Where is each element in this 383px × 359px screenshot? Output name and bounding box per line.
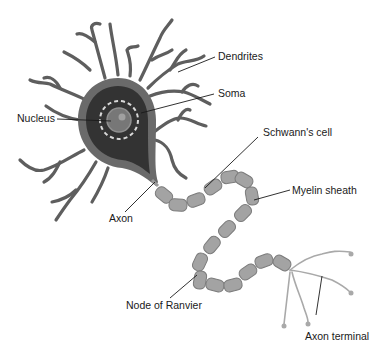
label-dendrites: Dendrites — [218, 50, 263, 62]
label-myelin-sheath: Myelin sheath — [292, 184, 357, 196]
label-schwann-cell: Schwann's cell — [263, 126, 332, 138]
label-node-of-ranvier: Node of Ranvier — [126, 299, 202, 311]
myelin-sheath — [153, 170, 293, 294]
label-axon-terminal: Axon terminal — [305, 330, 369, 342]
axon-terminal — [282, 251, 354, 328]
label-axon: Axon — [109, 212, 133, 224]
label-nucleus: Nucleus — [17, 112, 55, 124]
label-soma: Soma — [218, 87, 246, 99]
neuron-diagram: Dendrites Soma Nucleus Schwann's cell My… — [0, 0, 383, 359]
